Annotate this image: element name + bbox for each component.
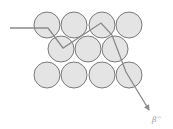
- atom-circle: [61, 62, 87, 88]
- beta-minus-label: β−: [151, 113, 162, 124]
- atom-circle: [116, 12, 142, 38]
- atom-circle: [89, 62, 115, 88]
- atom-circle: [34, 62, 60, 88]
- atom-lattice: [34, 12, 142, 88]
- atom-circle: [34, 12, 60, 38]
- atom-circle: [48, 36, 74, 62]
- atom-circle: [75, 36, 101, 62]
- atom-circle: [102, 36, 128, 62]
- atom-circle: [116, 62, 142, 88]
- scattering-diagram: β−: [0, 0, 173, 129]
